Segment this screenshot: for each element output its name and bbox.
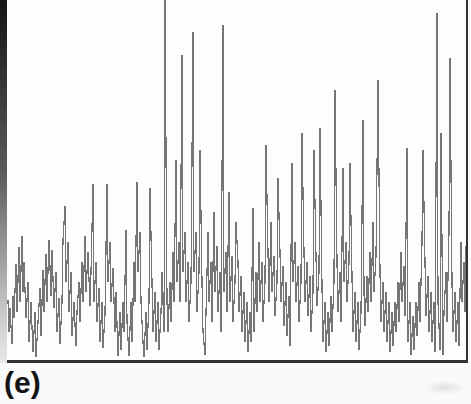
panel-label: (e) (4, 365, 41, 401)
waveform-canvas (0, 0, 471, 362)
waveform-plot (0, 0, 471, 362)
plot-frame-bottom (3, 360, 468, 363)
page-edge-shadow (0, 0, 7, 363)
plot-frame-right (466, 0, 468, 362)
waveform-line (8, 0, 466, 357)
scan-smudge (424, 380, 466, 395)
figure-panel: (e) (0, 0, 471, 404)
